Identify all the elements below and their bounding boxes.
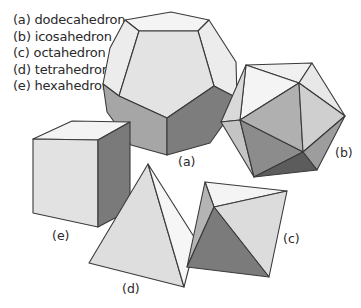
polyhedra-diagram: (a) (b) (c) (d) (e)	[0, 0, 361, 308]
label-d: (d)	[122, 281, 140, 296]
hexahedron	[33, 121, 130, 227]
label-b: (b)	[335, 145, 353, 160]
label-a: (a)	[178, 154, 195, 169]
octahedron	[187, 182, 287, 277]
dodeca-top-face	[125, 12, 209, 31]
icosahedron	[221, 63, 345, 177]
label-c: (c)	[283, 231, 300, 246]
label-e: (e)	[52, 228, 69, 243]
cube-front-face	[33, 139, 98, 227]
